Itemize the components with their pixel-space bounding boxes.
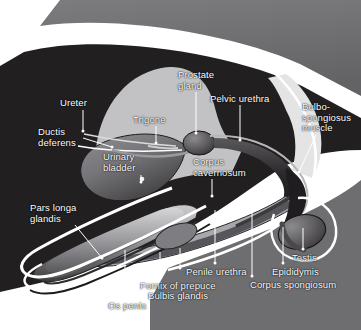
leader-dot-trigone (155, 142, 158, 145)
leader-dot-corpus-cavernosum (211, 195, 214, 198)
label-testis: Testis (292, 253, 317, 264)
label-trigone: Trigone (133, 115, 166, 126)
leader-dot-bulbospongiosus (298, 171, 301, 174)
label-bulbis-glandis: Bulbis glandis (148, 291, 208, 302)
label-ductis-deferens: Ductis deferens (38, 127, 76, 148)
label-pars-longa-glandis: Pars longa glandis (30, 203, 76, 224)
label-pelvic-urethra: Pelvic urethra (210, 94, 269, 105)
label-ureter: Ureter (60, 98, 87, 109)
leader-dot-bulbis-glandis (179, 267, 182, 270)
leader-dot-epididymis (282, 262, 285, 265)
label-epididymis: Epididymis (272, 267, 319, 278)
leader-dot-corpus-spongiosum (251, 275, 254, 278)
leader-dot-os-penis (124, 296, 127, 299)
label-corpus-cavernosum: Corpus cavernosum (193, 157, 246, 178)
leader-dot-penile-urethra (214, 262, 217, 265)
leader-dot-testis (302, 248, 305, 251)
leader-dot-ductis-deferens (111, 146, 114, 149)
leader-dot-pelvic-urethra (239, 139, 242, 142)
label-bulbospongiosus: Bulbo- spongiosus muscle (302, 102, 351, 134)
leader-dot-pars-longa-glandis (101, 257, 104, 260)
leader-dot-urinary-bladder (140, 181, 143, 184)
label-urinary-bladder: Urinary bladder (103, 152, 135, 173)
leader-dot-fornix-of-prepuce (159, 276, 162, 279)
label-penile-urethra: Penile urethra (186, 267, 247, 278)
leader-dot-ureter (82, 130, 85, 133)
label-os-penis: Os penis (108, 301, 146, 312)
leader-dot-prostate-gland (195, 132, 198, 135)
bladder-highlight (140, 177, 145, 182)
prostate-gland-organ (183, 131, 215, 155)
label-prostate-gland: Prostate gland (178, 70, 214, 91)
anatomy-figure: UreterDuctis deferensTrigoneProstate gla… (0, 0, 361, 330)
label-corpus-spongiosum: Corpus spongiosum (250, 280, 336, 291)
